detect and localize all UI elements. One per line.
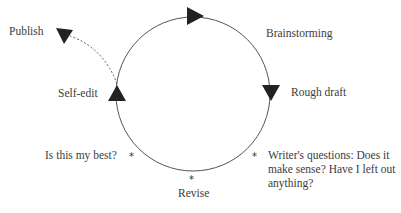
stage-label-self-edit: Self-edit: [58, 86, 98, 100]
stage-label-rough-draft: Rough draft: [291, 85, 346, 99]
arrow-top-right-icon: [187, 7, 204, 25]
note-is-this-my-best: Is this my best?: [45, 148, 117, 162]
stage-label-revise: Revise: [178, 186, 209, 200]
publish-dashed-path: [70, 36, 117, 84]
asterisk-icon: *: [252, 152, 257, 162]
note-writers-questions: Writer's questions: Does it make sense? …: [268, 148, 398, 190]
stage-label-publish: Publish: [9, 24, 44, 38]
asterisk-icon: *: [189, 175, 194, 185]
asterisk-icon: *: [129, 152, 134, 162]
stage-label-brainstorming: Brainstorming: [266, 26, 332, 40]
arrow-left-up-icon: [108, 85, 126, 101]
cycle-circle: [116, 17, 270, 171]
arrow-right-down-icon: [262, 85, 280, 101]
